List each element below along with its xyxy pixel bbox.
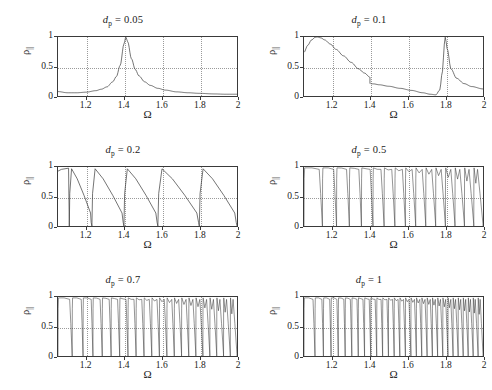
y-axis-label-symbol: ρ|| — [266, 47, 277, 55]
x-axis-tick-mark — [370, 97, 371, 100]
panel-dp-05: dp = 0.5ρ||00.511.21.41.61.82Ω — [246, 130, 492, 260]
panel-title-value: = 0.7 — [115, 274, 141, 285]
y-axis-tick-label: 1 — [294, 31, 299, 41]
y-axis-label-subscript: || — [271, 47, 280, 50]
y-axis-tick-label: 0 — [294, 92, 299, 102]
y-axis-tick-mark — [300, 67, 303, 68]
panel-title: dp = 0.7 — [0, 274, 246, 288]
y-axis-tick-label: 1 — [48, 31, 53, 41]
panel-title-symbol: dp — [352, 14, 361, 25]
x-axis-tick-mark — [124, 97, 125, 100]
x-axis-tick-mark — [332, 357, 333, 360]
y-axis-tick-mark — [54, 36, 57, 37]
x-axis-tick-mark — [86, 97, 87, 100]
y-axis-tick-label: 0.5 — [41, 322, 53, 332]
y-axis-label-symbol: ρ|| — [20, 307, 31, 315]
plot-box — [303, 296, 484, 357]
x-axis-tick-mark — [446, 227, 447, 230]
y-axis-tick-label: 1 — [48, 161, 53, 171]
y-axis-tick-label: 0 — [48, 92, 53, 102]
x-axis-label: Ω — [57, 368, 238, 380]
x-axis-tick-mark — [162, 227, 163, 230]
y-axis-label-subscript: || — [25, 177, 34, 180]
panel-title-value: = 0.1 — [361, 14, 387, 25]
x-axis-tick-mark — [162, 357, 163, 360]
y-axis-label: ρ|| — [20, 47, 34, 55]
y-axis-label-subscript: || — [25, 47, 34, 50]
y-axis-label: ρ|| — [20, 177, 34, 185]
plot-box — [57, 296, 238, 357]
x-axis-tick-mark — [484, 97, 485, 100]
y-axis-tick-label: 0.5 — [287, 62, 299, 72]
panel-title-symbol: dp — [356, 274, 365, 285]
panel-title: dp = 0.05 — [0, 14, 246, 28]
x-axis-label: Ω — [303, 368, 484, 380]
panel-title: dp = 0.5 — [246, 144, 492, 158]
x-axis-tick-mark — [238, 97, 239, 100]
panel-title-symbol: dp — [106, 274, 115, 285]
y-axis-label: ρ|| — [266, 47, 280, 55]
panel-dp-005: dp = 0.05ρ||00.511.21.41.61.82Ω — [0, 0, 246, 130]
figure-panel-grid: dp = 0.05ρ||00.511.21.41.61.82Ωdp = 0.1ρ… — [0, 0, 492, 390]
x-axis-tick-mark — [200, 227, 201, 230]
y-axis-tick-label: 1 — [294, 291, 299, 301]
data-curve — [304, 37, 483, 96]
panel-dp-01: dp = 0.1ρ||00.511.21.41.61.82Ω — [246, 0, 492, 130]
y-axis-tick-mark — [300, 197, 303, 198]
y-axis-tick-mark — [54, 357, 57, 358]
panel-title-symbol: dp — [103, 14, 112, 25]
y-axis-tick-mark — [54, 67, 57, 68]
plot-area: 00.511.21.41.61.82 — [303, 296, 484, 357]
y-axis-tick-mark — [300, 227, 303, 228]
plot-box — [57, 166, 238, 227]
y-axis-tick-mark — [54, 197, 57, 198]
data-curve — [58, 37, 237, 96]
panel-dp-02: dp = 0.2ρ||00.511.21.41.61.82Ω — [0, 130, 246, 260]
y-axis-tick-mark — [300, 36, 303, 37]
x-axis-tick-mark — [332, 227, 333, 230]
y-axis-tick-mark — [54, 296, 57, 297]
plot-box — [303, 36, 484, 97]
y-axis-tick-mark — [54, 166, 57, 167]
plot-area: 00.511.21.41.61.82 — [57, 296, 238, 357]
data-curve — [304, 297, 483, 356]
y-axis-label-subscript: || — [271, 307, 280, 310]
x-axis-tick-mark — [238, 357, 239, 360]
x-axis-label: Ω — [303, 238, 484, 250]
y-axis-tick-mark — [300, 357, 303, 358]
x-axis-tick-mark — [86, 227, 87, 230]
x-axis-tick-mark — [370, 357, 371, 360]
panel-title: dp = 1 — [246, 274, 492, 288]
panel-dp-1: dp = 1ρ||00.511.21.41.61.82Ω — [246, 260, 492, 390]
y-axis-tick-mark — [300, 97, 303, 98]
x-axis-tick-mark — [484, 227, 485, 230]
y-axis-tick-label: 1 — [294, 161, 299, 171]
panel-title-value: = 0.05 — [112, 14, 143, 25]
x-axis-label: Ω — [57, 238, 238, 250]
panel-title-value: = 0.5 — [361, 144, 387, 155]
y-axis-label: ρ|| — [20, 307, 34, 315]
x-axis-tick-mark — [124, 357, 125, 360]
data-curve — [304, 167, 483, 226]
x-axis-tick-mark — [200, 97, 201, 100]
y-axis-label-symbol: ρ|| — [20, 47, 31, 55]
x-axis-tick-mark — [200, 357, 201, 360]
plot-box — [57, 36, 238, 97]
x-axis-tick-mark — [124, 227, 125, 230]
plot-area: 00.511.21.41.61.82 — [303, 166, 484, 227]
x-axis-tick-mark — [370, 227, 371, 230]
y-axis-tick-label: 0.5 — [41, 192, 53, 202]
y-axis-tick-label: 0 — [48, 222, 53, 232]
panel-dp-07: dp = 0.7ρ||00.511.21.41.61.82Ω — [0, 260, 246, 390]
data-curve — [58, 167, 237, 226]
x-axis-label: Ω — [303, 108, 484, 120]
plot-area: 00.511.21.41.61.82 — [57, 166, 238, 227]
x-axis-tick-mark — [162, 97, 163, 100]
data-curve — [58, 297, 237, 356]
y-axis-tick-label: 0.5 — [41, 62, 53, 72]
x-axis-tick-mark — [446, 357, 447, 360]
panel-title-value: = 0.2 — [115, 144, 141, 155]
x-axis-label: Ω — [57, 108, 238, 120]
y-axis-tick-label: 0 — [294, 222, 299, 232]
x-axis-tick-mark — [238, 227, 239, 230]
